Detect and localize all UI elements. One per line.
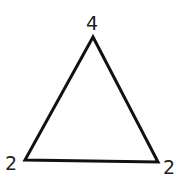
triangle-diagram: 4 2 2 <box>0 0 175 181</box>
vertex-label-top: 4 <box>86 12 98 34</box>
vertex-label-bottom-left: 2 <box>5 152 17 174</box>
triangle <box>25 37 158 162</box>
vertex-label-bottom-right: 2 <box>163 156 175 178</box>
